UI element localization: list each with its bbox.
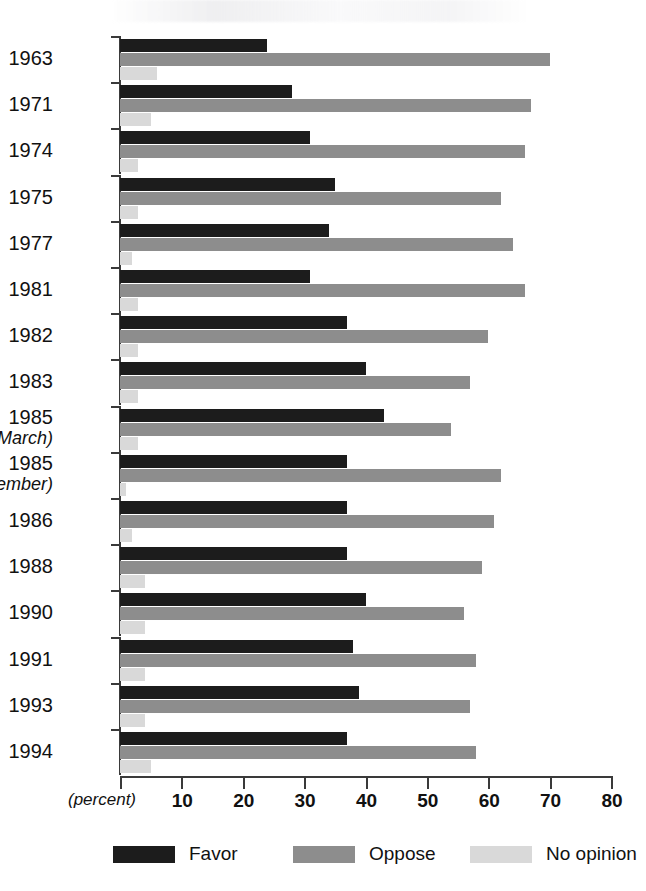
bar-favor: [120, 732, 347, 745]
x-axis-tick: [427, 776, 429, 789]
bar-oppose: [120, 145, 525, 158]
chart-row: 1982: [120, 313, 611, 359]
category-label: 1982: [9, 325, 54, 346]
category-label-note: (September): [0, 474, 53, 495]
category-tick: [111, 82, 121, 84]
chart-row: 1991: [120, 637, 611, 683]
category-label-year: 1982: [9, 324, 54, 346]
bar-oppose: [120, 607, 464, 620]
bar-favor: [120, 686, 359, 699]
chart-row: 1975: [120, 175, 611, 221]
x-axis-tick-label: 40: [356, 790, 377, 812]
bar-oppose: [120, 99, 531, 112]
bar-oppose: [120, 284, 525, 297]
bar-favor: [120, 409, 384, 422]
category-label: 1985(September): [0, 453, 53, 495]
bar-oppose: [120, 238, 513, 251]
category-label: 1974: [9, 140, 54, 161]
category-label-year: 1975: [9, 186, 54, 208]
category-label-year: 1971: [9, 93, 54, 115]
x-axis-tick: [488, 776, 490, 789]
category-label-year: 1988: [9, 555, 54, 577]
legend-label: Favor: [189, 843, 238, 865]
chart-row: 1963: [120, 36, 611, 82]
bar-favor: [120, 362, 366, 375]
category-tick: [111, 683, 121, 685]
bar-no-opinion: [120, 206, 138, 219]
chart-row: 1988: [120, 544, 611, 590]
bar-oppose: [120, 700, 470, 713]
x-axis-tick: [120, 776, 122, 789]
chart-row: 1985(September): [120, 452, 611, 498]
category-tick: [111, 313, 121, 315]
category-tick: [111, 498, 121, 500]
category-tick: [111, 544, 121, 546]
category-tick: [111, 36, 121, 38]
x-axis-tick: [366, 776, 368, 789]
x-axis-tick: [611, 776, 613, 789]
category-label: 1986: [9, 510, 54, 531]
chart-row: 1983: [120, 359, 611, 405]
category-label-year: 1981: [9, 278, 54, 300]
x-axis-tick: [181, 776, 183, 789]
chart-legend: FavorOpposeNo opinion: [0, 843, 646, 869]
bar-oppose: [120, 192, 501, 205]
bar-no-opinion: [120, 668, 145, 681]
bar-favor: [120, 178, 335, 191]
bar-no-opinion: [120, 298, 138, 311]
chart-row: 1990: [120, 590, 611, 636]
legend-swatch-icon: [293, 846, 355, 863]
category-label: 1985(March): [0, 407, 53, 449]
chart-row: 1994: [120, 729, 611, 775]
x-axis-tick-label: 80: [601, 790, 622, 812]
category-tick: [111, 221, 121, 223]
x-axis-tick-label: 10: [172, 790, 193, 812]
category-label-year: 1983: [9, 370, 54, 392]
category-label-year: 1986: [9, 509, 54, 531]
category-label: 1983: [9, 371, 54, 392]
bar-favor: [120, 455, 347, 468]
legend-item-oppose[interactable]: Oppose: [293, 843, 436, 865]
category-label: 1963: [9, 48, 54, 69]
category-tick: [111, 729, 121, 731]
category-label: 1975: [9, 187, 54, 208]
bar-oppose: [120, 469, 501, 482]
category-label-note: (March): [0, 428, 53, 449]
chart-row: 1981: [120, 267, 611, 313]
bar-favor: [120, 501, 347, 514]
bar-no-opinion: [120, 252, 132, 265]
bar-favor: [120, 224, 329, 237]
x-axis-tick-label: 50: [417, 790, 438, 812]
scan-artifact: [110, 0, 530, 22]
chart-row: 1986: [120, 498, 611, 544]
category-label-year: 1974: [9, 139, 54, 161]
bar-no-opinion: [120, 113, 151, 126]
x-axis-tick-label: 20: [233, 790, 254, 812]
x-axis-tick-label: 70: [540, 790, 561, 812]
legend-label: Oppose: [369, 843, 436, 865]
legend-item-no-opinion[interactable]: No opinion: [470, 843, 637, 865]
x-axis-tick: [243, 776, 245, 789]
category-label: 1988: [9, 556, 54, 577]
bar-favor: [120, 131, 310, 144]
x-axis-tick-label: 30: [295, 790, 316, 812]
category-label-year: 1990: [9, 601, 54, 623]
category-label: 1991: [9, 649, 54, 670]
bar-oppose: [120, 515, 494, 528]
bar-no-opinion: [120, 344, 138, 357]
bar-favor: [120, 547, 347, 560]
bar-oppose: [120, 654, 476, 667]
bar-no-opinion: [120, 437, 138, 450]
category-label-year: 1985: [9, 406, 54, 428]
bar-favor: [120, 593, 366, 606]
chart-row: 1985(March): [120, 406, 611, 452]
legend-swatch-icon: [113, 846, 175, 863]
legend-item-favor[interactable]: Favor: [113, 843, 238, 865]
bar-favor: [120, 39, 267, 52]
bar-no-opinion: [120, 760, 151, 773]
category-label: 1971: [9, 94, 54, 115]
bar-no-opinion: [120, 483, 126, 496]
bar-favor: [120, 316, 347, 329]
category-label-year: 1994: [9, 740, 54, 762]
legend-swatch-icon: [470, 846, 532, 863]
